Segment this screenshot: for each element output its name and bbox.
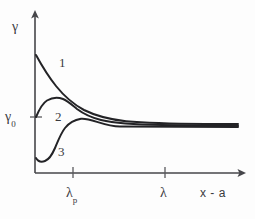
y-axis-label: γ: [12, 20, 18, 34]
lambda-p-base: λ: [66, 185, 73, 200]
x-tick-label-lambda-p: λp: [66, 186, 77, 203]
curve-1-path: [36, 55, 238, 124]
x-tick-label-lambda: λ: [160, 186, 167, 200]
curve-label-1: 1: [59, 56, 66, 69]
curve-label-3: 3: [58, 145, 65, 158]
lambda-p-subscript: p: [73, 195, 78, 205]
gamma-zero-subscript: 0: [11, 119, 16, 129]
y-tick-label-gamma-zero: γ0: [5, 110, 16, 127]
figure-container: γ γ0 λp λ x - a 1 2 3: [0, 0, 255, 219]
x-axis-label: x - a: [200, 187, 226, 199]
curve-label-2: 2: [55, 110, 62, 123]
